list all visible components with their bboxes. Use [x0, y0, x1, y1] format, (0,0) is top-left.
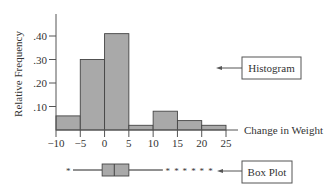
x-tick-label: −5	[74, 137, 86, 149]
outlier-marker: *	[182, 166, 187, 176]
y-tick-label: .20	[33, 77, 47, 89]
arrow-left-icon	[217, 169, 223, 173]
histogram-bar	[177, 121, 201, 130]
histogram-bar	[153, 111, 177, 130]
histogram-bar	[202, 125, 226, 130]
histogram-bar	[129, 125, 153, 130]
x-tick-label: 20	[196, 137, 208, 149]
histogram-boxplot-figure: .10.20.30.40−10−50510152025Change in Wei…	[0, 0, 334, 190]
y-tick-label: .10	[33, 101, 47, 113]
histogram-bar	[80, 60, 104, 131]
x-tick-label: 0	[102, 137, 108, 149]
arrow-left-icon	[216, 66, 222, 70]
x-tick-label: 10	[148, 137, 160, 149]
x-tick-label: −10	[47, 137, 65, 149]
outlier-marker: *	[165, 166, 170, 176]
x-tick-label: 15	[172, 137, 184, 149]
x-axis-label: Change in Weight	[244, 124, 323, 136]
outlier-marker: *	[66, 166, 71, 176]
boxplot-callout-label: Box Plot	[248, 166, 287, 178]
outlier-marker: *	[174, 166, 179, 176]
x-tick-label: 25	[221, 137, 233, 149]
histogram-bar	[56, 116, 80, 130]
histogram-callout-label: Histogram	[248, 62, 295, 74]
histogram-bar	[105, 34, 129, 130]
x-tick-label: 5	[126, 137, 132, 149]
box-iqr	[102, 164, 129, 176]
y-axis-label: Relative Frequency	[12, 31, 24, 117]
outlier-marker: *	[199, 166, 204, 176]
y-tick-label: .40	[33, 30, 47, 42]
y-tick-label: .30	[33, 54, 47, 66]
outlier-marker: *	[191, 166, 196, 176]
outlier-marker: *	[208, 166, 213, 176]
